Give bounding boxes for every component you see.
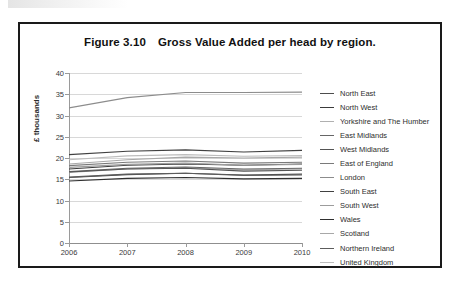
legend-color-swatch	[320, 248, 334, 249]
y-axis-tick-label: 20	[42, 154, 64, 163]
y-axis-tick-mark	[65, 179, 69, 180]
x-axis-tick-label: 2009	[222, 248, 266, 257]
legend-color-swatch	[320, 219, 334, 220]
legend-color-swatch	[320, 121, 334, 122]
y-axis-tick-label: 25	[42, 132, 64, 141]
x-axis-tick-mark	[127, 243, 128, 247]
legend-color-swatch	[320, 93, 334, 94]
legend-item-label: West Midlands	[340, 145, 389, 154]
scan-artifact	[8, 0, 128, 8]
y-axis-tick-label: 40	[42, 69, 64, 78]
series-line	[69, 150, 302, 155]
legend-item-label: South West	[340, 201, 379, 210]
legend-item[interactable]: London	[320, 171, 440, 185]
legend-item[interactable]: North East	[320, 86, 440, 100]
y-axis-tick-label: 0	[42, 239, 64, 248]
series-line	[69, 92, 302, 108]
legend-color-swatch	[320, 163, 334, 164]
legend-item-label: Wales	[340, 215, 361, 224]
x-axis-tick-label: 2006	[47, 248, 91, 257]
y-axis-tick-label: 30	[42, 111, 64, 120]
legend-item[interactable]: United Kingdom	[320, 255, 440, 269]
y-axis-tick-label: 10	[42, 196, 64, 205]
x-axis-tick-mark	[69, 243, 70, 247]
x-axis-tick-mark	[244, 243, 245, 247]
series-lines	[69, 73, 302, 243]
series-line	[69, 173, 302, 177]
legend-item[interactable]: East Midlands	[320, 128, 440, 142]
legend-item[interactable]: South East	[320, 185, 440, 199]
y-axis-tick-label: 15	[42, 175, 64, 184]
legend-item-label: Yorkshire and The Humber	[340, 117, 429, 126]
legend-color-swatch	[320, 262, 334, 263]
y-axis-tick-mark	[65, 158, 69, 159]
x-axis-tick-label: 2007	[105, 248, 149, 257]
y-axis-tick-label: 35	[42, 90, 64, 99]
legend-color-swatch	[320, 149, 334, 150]
y-axis-tick-mark	[65, 116, 69, 117]
legend-item-label: North West	[340, 103, 377, 112]
legend-item-label: North East	[340, 89, 375, 98]
legend-item[interactable]: North West	[320, 100, 440, 114]
legend-item[interactable]: Yorkshire and The Humber	[320, 114, 440, 128]
y-axis-tick-mark	[65, 137, 69, 138]
y-axis-tick-label: 5	[42, 217, 64, 226]
y-axis-tick-mark	[65, 201, 69, 202]
y-axis-tick-mark	[65, 73, 69, 74]
legend-item[interactable]: East of England	[320, 156, 440, 170]
y-axis-tick-mark	[65, 94, 69, 95]
legend-item[interactable]: Scotland	[320, 227, 440, 241]
figure-frame: Figure 3.10Gross Value Added per head by…	[18, 22, 442, 268]
legend-item-label: East Midlands	[340, 131, 387, 140]
legend-color-swatch	[320, 205, 334, 206]
legend-item[interactable]: West Midlands	[320, 142, 440, 156]
legend-color-swatch	[320, 107, 334, 108]
legend-color-swatch	[320, 135, 334, 136]
legend-item-label: East of England	[340, 159, 393, 168]
legend-item-label: Northern Ireland	[340, 244, 394, 253]
legend-color-swatch	[320, 191, 334, 192]
x-axis-tick-label: 2010	[280, 248, 324, 257]
legend-item[interactable]: Northern Ireland	[320, 241, 440, 255]
legend-color-swatch	[320, 177, 334, 178]
legend-item[interactable]: South West	[320, 199, 440, 213]
legend-item-label: United Kingdom	[340, 258, 393, 267]
legend-color-swatch	[320, 233, 334, 234]
series-line	[69, 178, 302, 181]
legend-item-label: London	[340, 173, 365, 182]
y-axis-tick-mark	[65, 222, 69, 223]
y-axis-title: £ thousands	[32, 95, 41, 142]
x-axis-tick-mark	[186, 243, 187, 247]
chart-legend: North EastNorth WestYorkshire and The Hu…	[320, 86, 440, 269]
legend-item-label: South East	[340, 187, 377, 196]
x-axis-tick-mark	[302, 243, 303, 247]
legend-item-label: Scotland	[340, 229, 369, 238]
legend-item[interactable]: Wales	[320, 213, 440, 227]
x-axis-tick-label: 2008	[164, 248, 208, 257]
